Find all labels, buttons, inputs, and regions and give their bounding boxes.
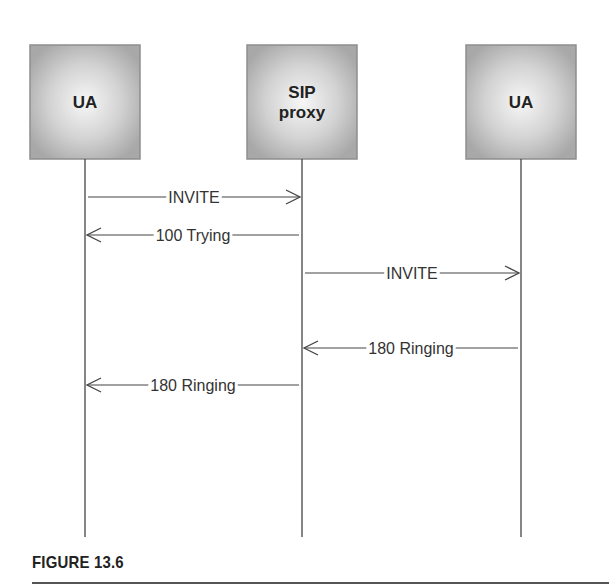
participant-label: proxy: [279, 103, 326, 122]
message-arrow: INVITE: [305, 265, 519, 282]
participant-sip-proxy: SIPproxy: [247, 45, 357, 537]
participant-ua-right: UA: [466, 45, 576, 537]
participant-box: [247, 45, 357, 159]
figure-caption: FIGURE 13.6: [32, 553, 124, 573]
message-label: 100 Trying: [156, 227, 231, 244]
message-arrow: INVITE: [88, 189, 300, 206]
participant-label: UA: [73, 93, 98, 112]
message-arrow: 180 Ringing: [87, 377, 299, 394]
message-label: 180 Ringing: [150, 377, 235, 394]
caption-rule: [32, 582, 609, 584]
participant-label: UA: [509, 93, 534, 112]
sequence-diagram: UASIPproxyUA INVITE100 TryingINVITE180 R…: [0, 0, 609, 587]
message-label: INVITE: [386, 265, 438, 282]
participant-label: SIP: [288, 83, 315, 102]
message-label: 180 Ringing: [368, 340, 453, 357]
message-label: INVITE: [168, 189, 220, 206]
message-arrow: 180 Ringing: [304, 340, 518, 357]
message-arrow: 100 Trying: [87, 227, 299, 244]
participant-ua-left: UA: [30, 45, 140, 537]
